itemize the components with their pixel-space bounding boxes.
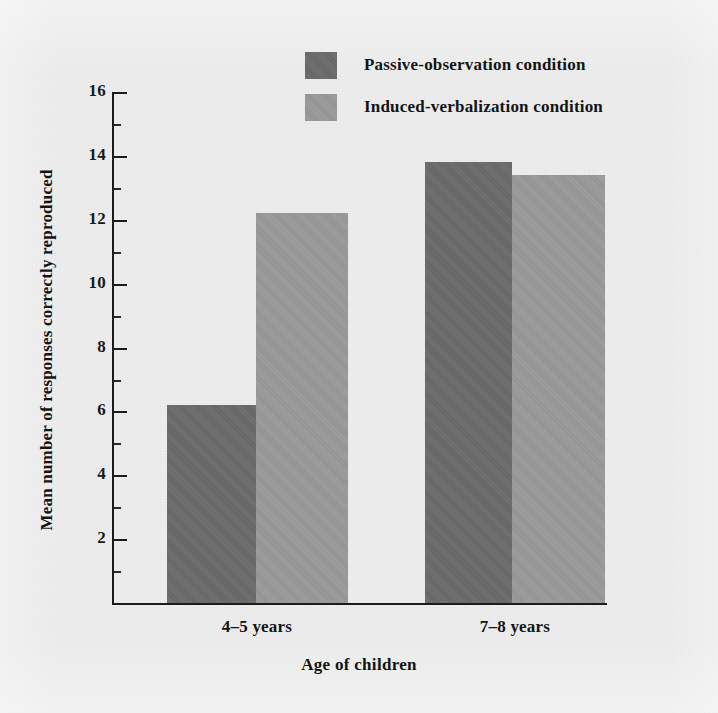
y-tick-6 [114, 411, 127, 413]
y-tick-minor-5 [114, 443, 121, 445]
y-tick-2 [114, 539, 127, 541]
y-tick-4 [114, 475, 127, 477]
y-tick-label-16: 16 [66, 81, 106, 101]
bar-4-5-years-induced-verbalization [256, 213, 348, 603]
x-axis-line [112, 603, 607, 605]
y-tick-minor-7 [114, 380, 121, 382]
y-tick-label-4: 4 [66, 464, 106, 484]
bar-4-5-years-passive-observation [167, 405, 256, 603]
legend-swatch-light-gray-icon [305, 94, 337, 121]
legend-label-passive-observation: Passive-observation condition [364, 55, 586, 75]
y-tick-label-2: 2 [66, 528, 106, 548]
y-tick-12 [114, 220, 127, 222]
y-tick-label-6: 6 [66, 400, 106, 420]
y-tick-minor-11 [114, 252, 121, 254]
x-tick-label-4-5-years: 4–5 years [177, 617, 337, 637]
bar-7-8-years-induced-verbalization [512, 175, 605, 603]
y-tick-10 [114, 284, 127, 286]
y-tick-16 [114, 92, 127, 94]
y-tick-minor-15 [114, 124, 121, 126]
y-tick-label-14: 14 [66, 145, 106, 165]
y-tick-label-10: 10 [66, 273, 106, 293]
y-tick-minor-1 [114, 571, 121, 573]
x-tick-label-7-8-years: 7–8 years [435, 617, 595, 637]
legend-label-induced-verbalization: Induced-verbalization condition [364, 97, 603, 117]
bar-7-8-years-passive-observation [425, 162, 512, 603]
x-axis-title: Age of children [0, 655, 718, 675]
legend-item-induced-verbalization: Induced-verbalization condition [305, 86, 603, 128]
y-tick-minor-3 [114, 507, 121, 509]
y-tick-minor-9 [114, 316, 121, 318]
y-axis-title: Mean number of responses correctly repro… [37, 140, 57, 560]
bar-chart-figure: Passive-observation condition Induced-ve… [0, 0, 718, 713]
legend-item-passive-observation: Passive-observation condition [305, 44, 603, 86]
y-tick-minor-13 [114, 188, 121, 190]
y-tick-label-8: 8 [66, 337, 106, 357]
y-tick-label-12: 12 [66, 209, 106, 229]
y-tick-14 [114, 156, 127, 158]
legend-swatch-dark-gray-icon [305, 52, 337, 79]
plot-area: Passive-observation condition Induced-ve… [0, 0, 718, 713]
y-tick-8 [114, 348, 127, 350]
chart-legend: Passive-observation condition Induced-ve… [305, 44, 603, 128]
